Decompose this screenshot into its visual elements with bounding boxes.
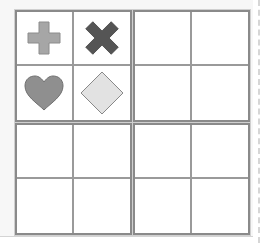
cell-r2c2[interactable] (74, 66, 131, 120)
cell-r4c4[interactable] (192, 179, 249, 233)
cell-r2c3[interactable] (135, 66, 192, 120)
box-bottom-right (133, 123, 250, 235)
cell-r2c1[interactable] (17, 66, 74, 120)
cell-r1c1[interactable] (17, 12, 74, 66)
box-top-left (15, 10, 132, 122)
box-top-right (133, 10, 250, 122)
plus-icon (26, 20, 62, 56)
heart-icon (23, 74, 65, 112)
diamond-icon (79, 70, 125, 116)
cell-r4c3[interactable] (135, 179, 192, 233)
box-bottom-left (15, 123, 132, 235)
cell-r4c2[interactable] (74, 179, 131, 233)
cell-r3c1[interactable] (17, 125, 74, 179)
cell-r1c2[interactable] (74, 12, 131, 66)
cell-r3c3[interactable] (135, 125, 192, 179)
cell-r4c1[interactable] (17, 179, 74, 233)
cell-r1c3[interactable] (135, 12, 192, 66)
cell-r2c4[interactable] (192, 66, 249, 120)
cell-r1c4[interactable] (192, 12, 249, 66)
cell-r3c2[interactable] (74, 125, 131, 179)
cross-icon (84, 20, 120, 56)
cell-r3c4[interactable] (192, 125, 249, 179)
puzzle-board (15, 10, 249, 229)
page-edge-dashed-divider (258, 0, 260, 243)
